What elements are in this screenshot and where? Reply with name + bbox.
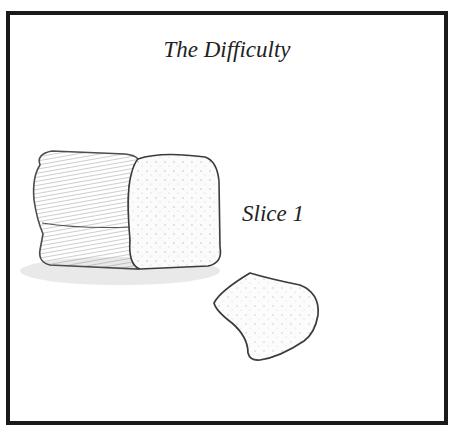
bread-sketch bbox=[10, 15, 444, 421]
bread-slice-icon bbox=[214, 273, 318, 360]
bread-loaf-icon bbox=[34, 151, 221, 269]
illustration-frame: The Difficulty Slice 1 bbox=[6, 11, 448, 425]
